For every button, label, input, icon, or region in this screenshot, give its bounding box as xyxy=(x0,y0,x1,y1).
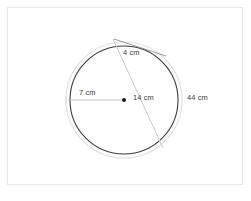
radius-label: 7 cm xyxy=(79,89,96,97)
chord-label: 4 cm xyxy=(123,49,140,57)
circumference-label: 44 cm xyxy=(187,94,208,102)
diagram-canvas: 4 cm 7 cm 14 cm 44 cm xyxy=(0,0,251,201)
chord-line xyxy=(114,39,166,56)
center-diameter-label: 14 cm xyxy=(133,94,154,102)
circle-figure xyxy=(0,0,251,201)
center-dot xyxy=(122,98,126,102)
